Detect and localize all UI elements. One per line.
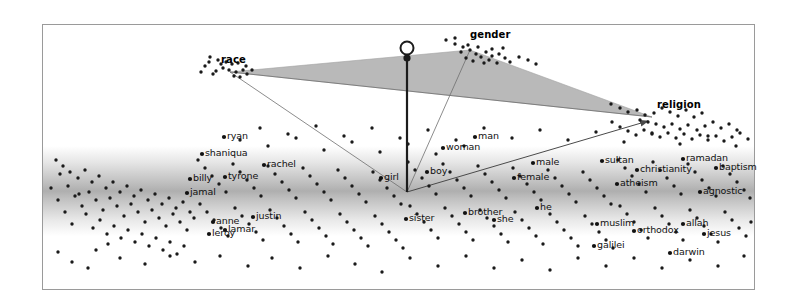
scatter-point [164, 224, 167, 227]
scatter-point [484, 50, 487, 53]
scatter-point [211, 72, 214, 75]
word-point [188, 177, 192, 181]
scatter-point [660, 266, 663, 269]
scatter-point [208, 55, 211, 58]
scatter-point [604, 264, 607, 267]
scatter-point [289, 232, 292, 235]
scatter-point [101, 208, 104, 211]
word-point [207, 232, 211, 236]
scatter-point [115, 204, 118, 207]
scatter-point [429, 228, 432, 231]
scatter-point [588, 178, 591, 181]
word-point [473, 135, 477, 139]
scatter-point [464, 56, 467, 59]
scatter-point [714, 134, 717, 137]
scatter-point [315, 182, 318, 185]
scatter-point [595, 186, 598, 189]
scatter-point [499, 232, 502, 235]
scatter-point [146, 198, 149, 201]
word-point [698, 190, 702, 194]
axis-label-race: race [221, 55, 246, 65]
scatter-point [238, 138, 241, 141]
scatter-point [371, 170, 374, 173]
scatter-point [254, 230, 257, 233]
scatter-point [676, 114, 679, 117]
scatter-point [471, 238, 474, 241]
word-point [222, 135, 226, 139]
scatter-point [160, 202, 163, 205]
scatter-point [366, 244, 369, 247]
scatter-point [674, 136, 677, 139]
scatter-point [634, 133, 637, 136]
scatter-point [70, 222, 73, 225]
scatter-point [511, 166, 514, 169]
word-point [702, 232, 706, 236]
scatter-point [626, 110, 629, 113]
word-point [441, 146, 445, 150]
scatter-point [695, 128, 698, 131]
scatter-point [706, 134, 709, 137]
scatter-point [84, 212, 87, 215]
scatter-point [87, 190, 90, 193]
scatter-point [709, 232, 712, 235]
scatter-point [711, 120, 714, 123]
scatter-point [364, 200, 367, 203]
scatter-point [744, 234, 747, 237]
scatter-point [196, 158, 199, 161]
scatter-point [261, 238, 264, 241]
word-point [615, 182, 619, 186]
scatter-point [730, 218, 733, 221]
scatter-point [380, 270, 383, 273]
scatter-point [639, 228, 642, 231]
scatter-point [461, 45, 464, 48]
scatter-point [182, 244, 185, 247]
scatter-point [83, 168, 86, 171]
scatter-point [86, 266, 89, 269]
scatter-point [129, 202, 132, 205]
scatter-point [462, 144, 465, 147]
scatter-point [574, 200, 577, 203]
scatter-point [221, 66, 224, 69]
scatter-point [443, 206, 446, 209]
scatter-point [342, 134, 345, 137]
scatter-point [651, 160, 654, 163]
scatter-point [716, 264, 719, 267]
scatter-point [175, 252, 178, 255]
scatter-point [618, 125, 621, 128]
scatter-point [504, 196, 507, 199]
scatter-point [203, 166, 206, 169]
scatter-point [513, 210, 516, 213]
scatter-point [497, 188, 500, 191]
scatter-point [216, 58, 219, 61]
scatter-point [94, 248, 97, 251]
scatter-point [632, 256, 635, 259]
scatter-point [506, 240, 509, 243]
scatter-point [706, 138, 709, 141]
scatter-point [210, 174, 213, 177]
scatter-point [286, 132, 289, 135]
scatter-point [534, 62, 537, 65]
scatter-point [682, 132, 685, 135]
scatter-point [140, 232, 143, 235]
scatter-point [322, 190, 325, 193]
scatter-point [632, 220, 635, 223]
scatter-point [468, 48, 471, 51]
scatter-point [122, 214, 125, 217]
axis-label-gender: gender [470, 30, 511, 40]
scatter-point [734, 144, 737, 147]
scatter-point [436, 264, 439, 267]
scatter-point [241, 68, 244, 71]
scatter-point [450, 214, 453, 217]
scatter-point [150, 208, 153, 211]
word-point [632, 229, 636, 233]
scatter-point [171, 212, 174, 215]
scatter-point [693, 170, 696, 173]
scatter-point [63, 210, 66, 213]
scatter-point [108, 196, 111, 199]
scatter-point [193, 260, 196, 263]
scatter-point [721, 164, 724, 167]
scatter-point [68, 170, 71, 173]
word-point [592, 244, 596, 248]
word-point [262, 163, 266, 167]
scatter-point [132, 194, 135, 197]
